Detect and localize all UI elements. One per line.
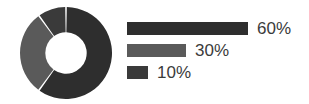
donut-chart-svg (20, 7, 112, 99)
legend-swatch-bar-60 (127, 22, 248, 35)
chart-canvas: 60% 30% 10% (0, 0, 309, 104)
legend-item-10[interactable]: 10% (127, 64, 191, 81)
legend-item-30[interactable]: 30% (127, 42, 229, 59)
legend-swatch-bar-30 (127, 44, 186, 57)
donut-chart (20, 7, 112, 99)
legend-label-60: 60% (257, 20, 291, 37)
chart-legend: 60% 30% 10% (127, 18, 309, 90)
legend-label-30: 30% (195, 42, 229, 59)
legend-swatch-bar-10 (127, 66, 148, 79)
legend-label-10: 10% (157, 64, 191, 81)
legend-item-60[interactable]: 60% (127, 20, 291, 37)
donut-slice-group (20, 7, 112, 99)
